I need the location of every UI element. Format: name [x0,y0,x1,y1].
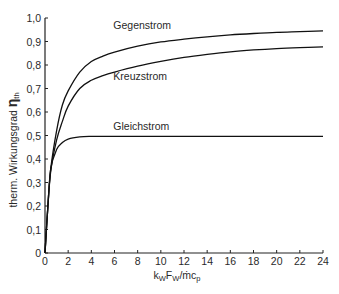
x-axis-title: kWFW/ṁcp [154,269,201,283]
curve-gleichstrom [45,136,323,253]
x-tick-label: 16 [224,255,236,267]
curve-gegenstrom [45,31,323,253]
x-tick-label: 12 [178,255,190,267]
y-tick-label: 0,5 [26,130,41,142]
label-gleichstrom: Gleichstrom [113,120,169,132]
x-tick-label: 14 [201,255,213,267]
x-tick-label: 6 [112,255,118,267]
y-axis-title: therm. Wirkungsgrad ηth [4,92,21,207]
y-tick-label: 0,2 [26,200,41,212]
x-tick-label: 18 [248,255,260,267]
x-tick-label: 0 [42,255,48,267]
x-tick-label: 4 [88,255,94,267]
label-kreuzstrom: Kreuzstrom [113,70,167,82]
series-labels: GegenstromKreuzstromGleichstrom [113,19,171,132]
x-tick-label: 20 [271,255,283,267]
efficiency-chart: 024681012141618202224 00,10,20,30,40,50,… [0,0,339,294]
x-tick-label: 10 [155,255,167,267]
y-tick-label: 0,7 [26,83,41,95]
x-tick-label: 22 [294,255,306,267]
y-tick-label: 0 [35,247,41,259]
curve-kreuzstrom [45,47,323,253]
x-tick-label: 8 [135,255,141,267]
y-tick-label: 0,6 [26,106,41,118]
y-tick-label: 0,4 [26,153,41,165]
y-tick-label: 0,9 [26,36,41,48]
x-tick-label: 24 [317,255,329,267]
y-tick-label: 0,3 [26,177,41,189]
label-gegenstrom: Gegenstrom [113,19,171,31]
data-curves [45,31,323,253]
x-tick-label: 2 [65,255,71,267]
y-tick-label: 0,8 [26,59,41,71]
y-tick-label: 0,1 [26,224,41,236]
axes [45,18,323,253]
y-tick-label: 1,0 [26,12,41,24]
